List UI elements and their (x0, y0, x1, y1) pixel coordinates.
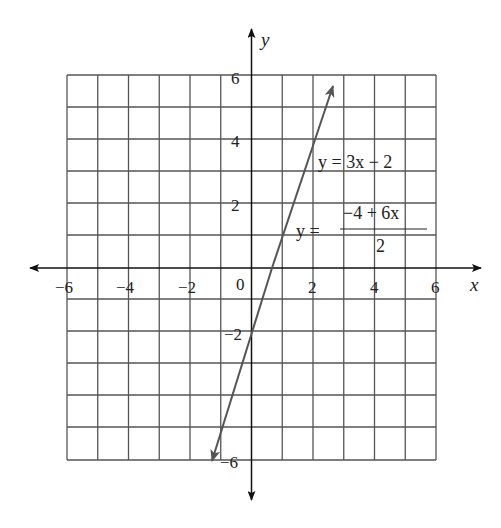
x-tick-label: 6 (431, 278, 440, 297)
coordinate-plane: y x −6 −4 −2 0 2 4 6 6 4 2 −2 −6 y = 3x … (0, 0, 501, 528)
x-tick-label: 2 (308, 278, 317, 297)
x-tick-label: 4 (370, 278, 379, 297)
y-tick-label: 4 (231, 132, 240, 151)
equation-label-fraction: y = −4 + 6x 2 (296, 203, 427, 256)
y-tick-label: 2 (231, 196, 240, 215)
x-tick-label: −6 (55, 278, 73, 297)
y-tick-label: −6 (220, 453, 238, 472)
origin-label: 0 (236, 275, 245, 294)
equation-numerator: −4 + 6x (343, 203, 399, 223)
x-axis-label: x (469, 274, 479, 295)
x-tick-label: −4 (116, 278, 135, 297)
y-tick-label: 6 (231, 69, 240, 88)
equation-lhs: y = (296, 221, 320, 241)
equation-label-slope-intercept: y = 3x − 2 (318, 152, 392, 172)
equation-denominator: 2 (376, 236, 385, 256)
y-axis-label: y (259, 29, 270, 50)
y-tick-label: −2 (224, 325, 242, 344)
x-tick-label: −2 (178, 278, 196, 297)
